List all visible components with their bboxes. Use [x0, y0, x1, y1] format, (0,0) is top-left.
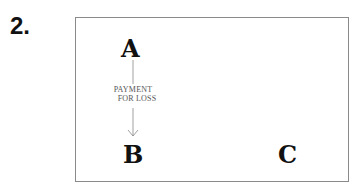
- edge-label: PAYMENT FOR LOSS: [100, 85, 166, 103]
- edge-label-line1: PAYMENT: [100, 85, 166, 94]
- arrow-a-to-b: [0, 0, 363, 192]
- edge-label-line2: FOR LOSS: [100, 94, 166, 103]
